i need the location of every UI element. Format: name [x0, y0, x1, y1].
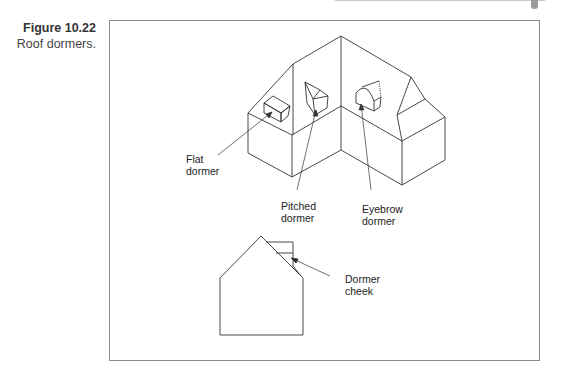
label-eyebrow-dormer: Eyebrow dormer	[362, 203, 403, 227]
label-flat-dormer: Flat dormer	[186, 153, 219, 177]
label-line: dormer	[281, 212, 316, 224]
house-elevation	[220, 236, 330, 335]
label-line: Eyebrow	[362, 203, 403, 215]
label-line: Pitched	[281, 200, 316, 212]
label-line: Dormer	[345, 273, 380, 285]
label-line: dormer	[186, 165, 219, 177]
label-pitched-dormer: Pitched dormer	[281, 200, 316, 224]
eyebrow-dormer-icon	[356, 81, 381, 111]
label-dormer-cheek: Dormer cheek	[345, 273, 380, 297]
roof-dormers-drawing	[0, 0, 562, 379]
pitched-dormer-icon	[305, 82, 328, 115]
flat-dormer-icon	[264, 96, 290, 122]
label-line: cheek	[345, 285, 380, 297]
label-line: dormer	[362, 215, 403, 227]
leader-lines	[218, 104, 371, 190]
label-line: Flat	[186, 153, 219, 165]
